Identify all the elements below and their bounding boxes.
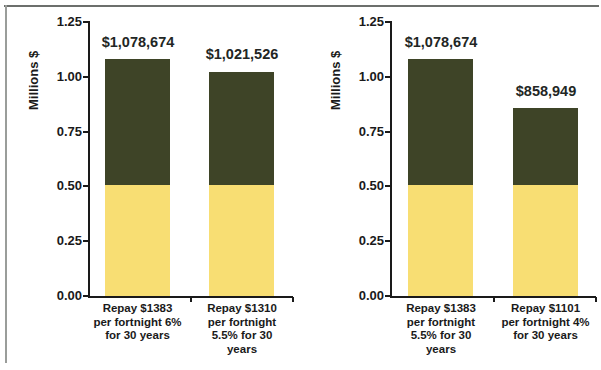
y-tick-0-25 <box>83 240 89 242</box>
category-label-line: for 30 years <box>494 329 597 343</box>
bar-segment-interest <box>105 59 170 185</box>
category-label-line: years <box>191 343 293 357</box>
y-axis-title: Millions $ <box>328 51 343 110</box>
category-label-line: per fortnight <box>191 316 293 330</box>
category-label-left-2: Repay $1310 per fortnight 5.5% for 30 ye… <box>191 302 293 356</box>
y-tick-1-25 <box>83 21 89 23</box>
bar-value-label-left-1: $1,078,674 <box>78 34 198 50</box>
y-tick-label-1-00: 1.00 <box>342 69 384 84</box>
y-tick-label-1-00: 1.00 <box>40 69 82 84</box>
bar-segment-principal <box>105 185 170 296</box>
stacked-bar-chart-figure: Millions $ 1.25 1.00 0.75 0.50 0.25 0.00… <box>0 0 601 370</box>
y-tick-1-00 <box>83 76 89 78</box>
chart-panel-left: Millions $ 1.25 1.00 0.75 0.50 0.25 0.00… <box>0 0 300 370</box>
bar-right-2[interactable] <box>513 108 578 296</box>
bar-value-label-right-1: $1,078,674 <box>381 34 501 50</box>
category-label-line: 5.5% for 30 <box>191 329 293 343</box>
category-label-line: per fortnight <box>389 316 493 330</box>
y-tick-label-1-25: 1.25 <box>40 14 82 29</box>
category-label-line: Repay $1101 <box>494 302 597 316</box>
category-label-right-2: Repay $1101 per fortnight 4% for 30 year… <box>494 302 597 343</box>
y-tick-0-75 <box>385 131 391 133</box>
category-label-line: Repay $1310 <box>191 302 293 316</box>
bar-segment-interest <box>209 72 274 185</box>
category-label-right-1: Repay $1383 per fortnight 5.5% for 30 ye… <box>389 302 493 356</box>
bar-segment-principal <box>513 185 578 296</box>
y-axis-line <box>390 21 392 298</box>
category-label-line: per fortnight 4% <box>494 316 597 330</box>
y-tick-1-25 <box>385 21 391 23</box>
bar-segment-principal <box>209 185 274 296</box>
y-tick-label-0-25: 0.25 <box>40 233 82 248</box>
bar-segment-interest <box>408 59 473 185</box>
y-tick-0-50 <box>83 185 89 187</box>
y-tick-label-1-25: 1.25 <box>342 14 384 29</box>
bar-segment-principal <box>408 185 473 296</box>
y-tick-label-0-50: 0.50 <box>342 178 384 193</box>
y-tick-0-50 <box>385 185 391 187</box>
bar-left-2[interactable] <box>209 72 274 296</box>
y-tick-label-0-25: 0.25 <box>342 233 384 248</box>
y-tick-0-75 <box>83 131 89 133</box>
y-tick-label-0-75: 0.75 <box>40 124 82 139</box>
bar-value-label-left-2: $1,021,526 <box>182 46 302 62</box>
y-tick-label-0-75: 0.75 <box>342 124 384 139</box>
y-axis-line <box>88 21 90 298</box>
bar-right-1[interactable] <box>408 59 473 296</box>
y-tick-0-00 <box>385 295 391 297</box>
y-tick-label-0-00: 0.00 <box>342 288 384 303</box>
bar-segment-interest <box>513 108 578 185</box>
category-label-line: years <box>389 343 493 357</box>
bar-left-1[interactable] <box>105 59 170 296</box>
y-axis-title: Millions $ <box>26 51 41 110</box>
y-tick-0-25 <box>385 240 391 242</box>
category-label-line: per fortnight 6% <box>85 316 190 330</box>
y-tick-label-0-50: 0.50 <box>40 178 82 193</box>
chart-panel-right: Millions $ 1.25 1.00 0.75 0.50 0.25 0.00… <box>300 0 600 370</box>
category-label-left-1: Repay $1383 per fortnight 6% for 30 year… <box>85 302 190 343</box>
category-label-line: Repay $1383 <box>85 302 190 316</box>
category-label-line: Repay $1383 <box>389 302 493 316</box>
category-label-line: for 30 years <box>85 329 190 343</box>
y-tick-0-00 <box>83 295 89 297</box>
bar-value-label-right-2: $858,949 <box>496 83 596 99</box>
y-tick-1-00 <box>385 76 391 78</box>
y-tick-label-0-00: 0.00 <box>40 288 82 303</box>
category-label-line: 5.5% for 30 <box>389 329 493 343</box>
